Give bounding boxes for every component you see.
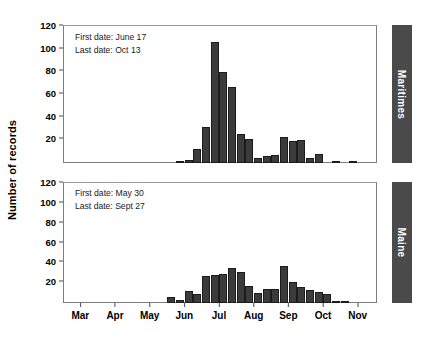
y-tick: 40 (34, 256, 63, 267)
y-tick: 60 (34, 236, 63, 247)
y-tick-mark (59, 201, 63, 202)
y-tick: 40 (34, 110, 63, 121)
y-tick-mark (59, 115, 63, 116)
y-tick-mark (59, 281, 63, 282)
figure: Number of records First date: June 17 La… (0, 0, 435, 340)
y-tick-label: 120 (34, 177, 56, 188)
x-tick-label: Jun (175, 310, 193, 321)
bar (228, 268, 236, 303)
y-tick-mark (59, 182, 63, 183)
bar (211, 275, 219, 303)
y-tick: 100 (34, 42, 63, 53)
annotation-last-date: Last date: Sept 27 (75, 200, 145, 213)
panel-label-maine-text: Maine (397, 228, 408, 258)
x-tick-mark (322, 303, 323, 307)
y-tick: 80 (34, 65, 63, 76)
x-tick: Jun (175, 303, 193, 321)
x-tick: Jul (212, 303, 226, 321)
bar (289, 141, 297, 163)
panel-maine: First date: May 30 Last date: Sept 27 20… (63, 182, 377, 303)
y-tick-mark (59, 25, 63, 26)
x-tick-mark (253, 303, 254, 307)
bar (202, 276, 210, 303)
bar (271, 289, 279, 303)
x-tick-mark (184, 303, 185, 307)
x-tick-mark (288, 303, 289, 307)
panel-label-maine: Maine (392, 182, 412, 303)
bar (237, 134, 245, 163)
bar (245, 139, 253, 163)
x-tick-label: Aug (244, 310, 263, 321)
x-tick: Apr (106, 303, 123, 321)
bar (254, 293, 262, 303)
annotation-maine: First date: May 30 Last date: Sept 27 (75, 187, 145, 213)
y-tick-label: 20 (34, 133, 56, 144)
y-tick-label: 20 (34, 276, 56, 287)
bar (297, 287, 305, 303)
panel-label-maritimes: Maritimes (392, 25, 412, 163)
x-tick: Mar (71, 303, 89, 321)
panel-maritimes: First date: June 17 Last date: Oct 13 20… (63, 25, 377, 163)
annotation-last-date: Last date: Oct 13 (75, 44, 146, 57)
annotation-maritimes: First date: June 17 Last date: Oct 13 (75, 31, 146, 57)
bar (306, 158, 314, 163)
y-tick-label: 60 (34, 88, 56, 99)
bar (280, 137, 288, 163)
y-tick: 80 (34, 216, 63, 227)
x-tick: Sep (279, 303, 297, 321)
bar (193, 149, 201, 163)
x-axis: MarAprMayJunJulAugSepOctNov (63, 303, 377, 335)
y-tick-label: 120 (34, 20, 56, 31)
y-tick: 20 (34, 133, 63, 144)
y-tick-label: 80 (34, 65, 56, 76)
y-tick-mark (59, 138, 63, 139)
bar (219, 72, 227, 163)
y-tick: 120 (34, 20, 63, 31)
bar (193, 294, 201, 303)
x-tick-label: Sep (279, 310, 297, 321)
x-tick: Oct (315, 303, 332, 321)
y-tick-label: 40 (34, 110, 56, 121)
y-tick-mark (59, 241, 63, 242)
x-tick-label: Apr (106, 310, 123, 321)
x-tick-label: Oct (315, 310, 332, 321)
bar (228, 87, 236, 163)
annotation-first-date: First date: May 30 (75, 187, 145, 200)
bar (349, 161, 357, 163)
y-tick-mark (59, 93, 63, 94)
y-tick-label: 60 (34, 236, 56, 247)
y-tick-label: 100 (34, 196, 56, 207)
bar (202, 127, 210, 163)
bar (211, 42, 219, 163)
x-tick-label: Jul (212, 310, 226, 321)
panel-label-maritimes-text: Maritimes (397, 69, 408, 118)
bar (323, 294, 331, 303)
bar (185, 160, 193, 163)
x-tick-mark (149, 303, 150, 307)
x-tick-mark (218, 303, 219, 307)
bar (237, 272, 245, 303)
y-tick-mark (59, 221, 63, 222)
y-tick: 60 (34, 88, 63, 99)
x-tick-mark (357, 303, 358, 307)
bar (263, 156, 271, 163)
y-tick: 120 (34, 177, 63, 188)
x-tick-label: Mar (71, 310, 89, 321)
bar (289, 282, 297, 303)
bar (297, 140, 305, 163)
x-tick-mark (114, 303, 115, 307)
bar (219, 274, 227, 303)
bar (245, 286, 253, 303)
bar (254, 158, 262, 163)
bar (271, 155, 279, 163)
bar (176, 161, 184, 163)
y-tick-mark (59, 70, 63, 71)
bar (306, 290, 314, 303)
bar (315, 292, 323, 303)
y-tick-label: 40 (34, 256, 56, 267)
y-tick: 100 (34, 196, 63, 207)
x-tick-mark (80, 303, 81, 307)
x-tick-label: May (140, 310, 159, 321)
bar (315, 154, 323, 163)
x-tick-label: Nov (348, 310, 367, 321)
